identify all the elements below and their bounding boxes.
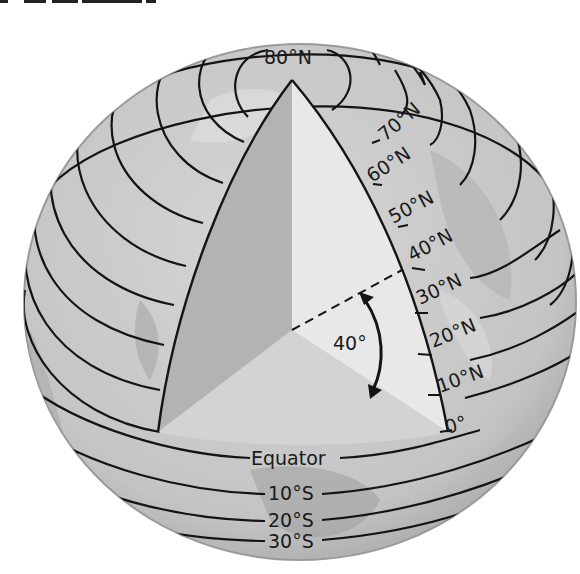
label-equator: Equator (251, 447, 326, 469)
label-80n: 80°N (264, 46, 312, 68)
latitude-globe-diagram: 80°N 70°N 60°N 50°N 40°N 30°N 20°N 10°N … (0, 0, 580, 574)
label-20s: 20°S (268, 509, 314, 531)
cropped-question-text (0, 0, 156, 3)
label-10s: 10°S (268, 482, 314, 504)
label-30s: 30°S (268, 530, 314, 552)
angle-label: 40° (333, 332, 367, 354)
